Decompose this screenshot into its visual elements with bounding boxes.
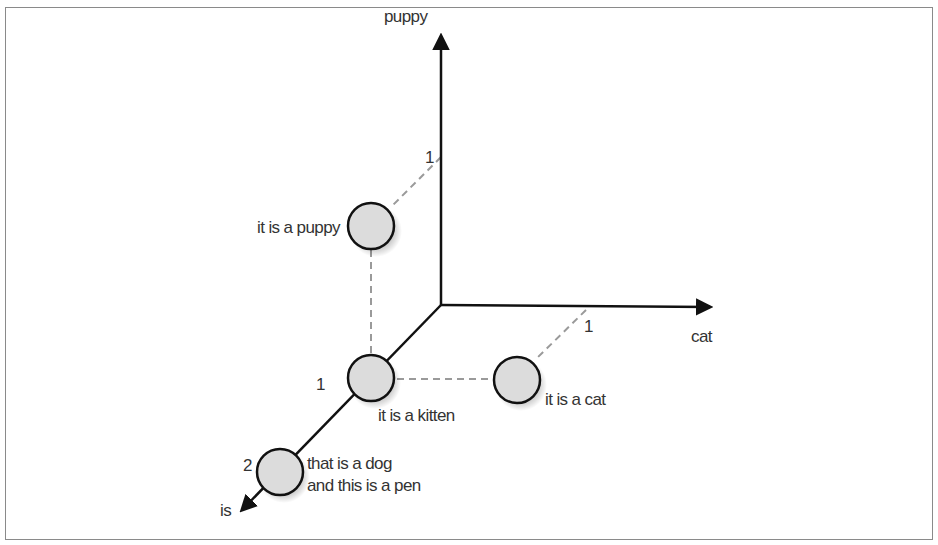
is-tick-1: 1: [316, 375, 325, 394]
puppy-axis-label: puppy: [384, 7, 428, 26]
data-points: [257, 203, 547, 503]
puppy-tick-1: 1: [425, 148, 434, 167]
axes: [242, 36, 710, 510]
label-that-is-a-dog: that is a dog: [307, 454, 392, 473]
cat-projection-line: [535, 310, 586, 360]
is-tick-2: 2: [243, 456, 252, 475]
projection-lines: [371, 157, 586, 379]
label-it-is-a-kitten: it is a kitten: [378, 406, 455, 425]
point-puppy: [348, 203, 394, 249]
label-it-is-a-cat: it is a cat: [545, 390, 606, 409]
cat-axis-label: cat: [691, 327, 713, 346]
is-axis-label: is: [220, 501, 231, 520]
point-kitten: [348, 355, 394, 401]
cat-tick-1: 1: [584, 317, 593, 336]
label-it-is-a-puppy: it is a puppy: [257, 218, 341, 237]
label-and-this-is-a-pen: and this is a pen: [307, 476, 421, 495]
point-cat: [494, 357, 540, 403]
vector-space-diagram: puppy 1 cat 1 1 2 is it is a puppy it is…: [0, 0, 938, 545]
cat-axis: [441, 305, 710, 307]
point-dog-pen: [257, 449, 303, 495]
